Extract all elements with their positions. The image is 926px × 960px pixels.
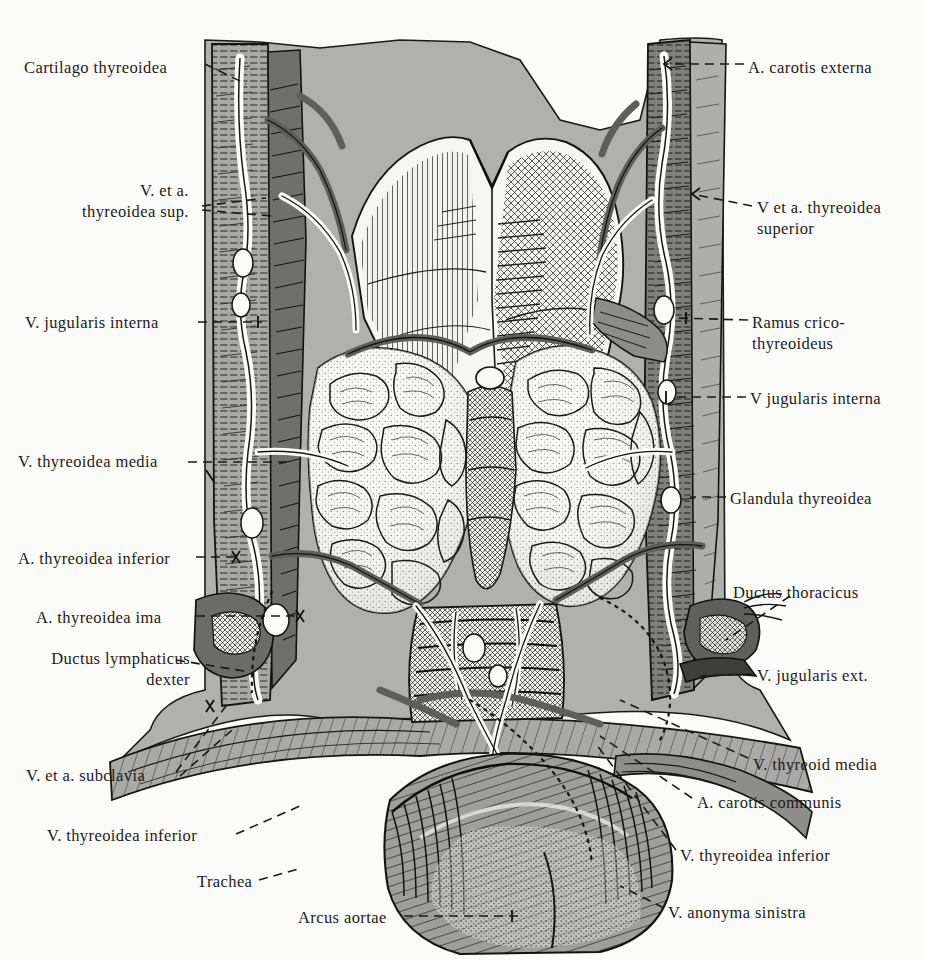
arcus-aortae-structure: [384, 754, 672, 954]
label-v-thyreoidea-media-left: V. thyreoidea media: [18, 452, 158, 472]
anatomical-illustration: [0, 0, 926, 960]
label-a-carotis-externa: A. carotis externa: [748, 58, 872, 78]
label-v-jugularis-interna-left: V. jugularis interna: [25, 313, 159, 333]
label-v-jugularis-interna-right: V jugularis interna: [750, 389, 881, 409]
label-v-et-a-subclavia: V. et a. subclavia: [26, 766, 145, 786]
label-glandula-thyreoidea: Glandula thyreoidea: [730, 489, 872, 509]
label-v-thyreoidea-inferior-left: V. thyreoidea inferior: [47, 826, 197, 846]
label-ductus-lymphaticus-dexter: Ductus lymphaticus dexter: [10, 648, 190, 690]
label-v-thyreoid-media-right: V. thyreoid media: [753, 755, 877, 775]
label-a-thyreoidea-inferior: A. thyreoidea inferior: [18, 549, 170, 569]
label-v-et-a-thyreoidea-sup: V. et a. thyreoidea sup.: [82, 180, 189, 222]
label-trachea: Trachea: [197, 872, 252, 892]
label-ramus-crico-thyreoideus: Ramus crico- thyreoideus: [752, 312, 845, 354]
label-a-thyreoidea-ima: A. thyreoidea ima: [36, 608, 161, 628]
label-v-et-a-thyreoidea-superior: V et a. thyreoidea superior: [757, 197, 881, 239]
label-arcus-aortae: Arcus aortae: [298, 908, 387, 928]
label-a-carotis-communis: A. carotis communis: [697, 793, 842, 813]
label-v-thyreoidea-inferior-right: V. thyreoidea inferior: [680, 846, 830, 866]
label-v-jugularis-ext: V. jugularis ext.: [757, 666, 868, 686]
label-ductus-thoracicus: Ductus thoracicus: [733, 583, 858, 603]
label-cartilago-thyreoidea: Cartilago thyreoidea: [24, 58, 167, 78]
label-v-anonyma-sinistra: V. anonyma sinistra: [668, 903, 806, 923]
